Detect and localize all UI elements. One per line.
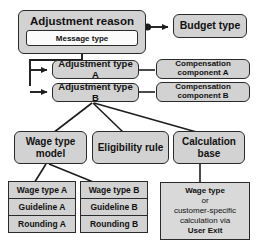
node-wage-type-model-label-line1: Wage type xyxy=(26,136,76,147)
node-wage-type-model[interactable]: Wage type model xyxy=(14,131,87,164)
cell-rounding-a-label: Rounding A xyxy=(18,219,66,229)
panel-user-exit-line1: Wage type xyxy=(185,186,225,196)
edge-type-b-to-eligibility xyxy=(93,103,124,133)
node-calculation-base-label-line2: base xyxy=(198,148,221,159)
node-adjustment-reason-label: Adjustment reason xyxy=(19,15,145,28)
cell-rounding-a[interactable]: Rounding A xyxy=(8,215,76,233)
node-compensation-component-b-label-line2: component B xyxy=(177,92,228,101)
node-adjustment-type-b[interactable]: Adjustment type B xyxy=(52,83,139,102)
cell-rounding-b[interactable]: Rounding B xyxy=(80,215,148,233)
cell-wage-type-a-label: Wage type A xyxy=(17,185,67,195)
cell-guideline-b-label: Guideline B xyxy=(90,202,137,212)
diagram-canvas: Adjustment reason Message type Budget ty… xyxy=(0,0,257,246)
node-compensation-component-a[interactable]: Compensation component A xyxy=(156,59,250,79)
node-adjustment-type-b-label: Adjustment type B xyxy=(53,82,138,103)
node-budget-type-label: Budget type xyxy=(174,20,246,32)
node-calculation-base-label-line1: Calculation xyxy=(182,136,236,147)
edge-type-b-to-wage-model xyxy=(53,103,92,133)
cell-wage-type-a[interactable]: Wage type A xyxy=(8,181,76,199)
panel-user-exit-line3: customer-specific xyxy=(174,206,236,216)
cell-guideline-a-label: Guideline A xyxy=(19,202,66,212)
panel-user-exit[interactable]: Wage type or customer-specific calculati… xyxy=(160,182,250,240)
cell-wage-type-b-label: Wage type B xyxy=(89,185,140,195)
panel-user-exit-line2: or xyxy=(201,196,208,206)
node-compensation-component-a-label-line2: component A xyxy=(178,69,229,78)
node-wage-type-model-label-line2: model xyxy=(36,148,65,159)
node-message-type-label: Message type xyxy=(56,34,108,43)
cell-guideline-b[interactable]: Guideline B xyxy=(80,198,148,216)
node-compensation-component-b[interactable]: Compensation component B xyxy=(156,82,250,102)
cell-guideline-a[interactable]: Guideline A xyxy=(8,198,76,216)
node-eligibility-rule[interactable]: Eligibility rule xyxy=(92,131,169,164)
node-calculation-base[interactable]: Calculation base xyxy=(173,131,245,164)
node-adjustment-type-a-label: Adjustment type A xyxy=(53,59,138,80)
node-eligibility-rule-label: Eligibility rule xyxy=(93,142,168,153)
panel-user-exit-line4: calculation via xyxy=(180,216,230,226)
cell-wage-type-b[interactable]: Wage type B xyxy=(80,181,148,199)
panel-user-exit-line5: User Exit xyxy=(188,226,223,236)
node-message-type[interactable]: Message type xyxy=(26,30,138,46)
cell-rounding-b-label: Rounding B xyxy=(90,219,138,229)
node-budget-type[interactable]: Budget type xyxy=(173,14,247,38)
node-adjustment-type-a[interactable]: Adjustment type A xyxy=(52,60,139,79)
edge-type-b-to-calculation-base xyxy=(94,103,200,133)
